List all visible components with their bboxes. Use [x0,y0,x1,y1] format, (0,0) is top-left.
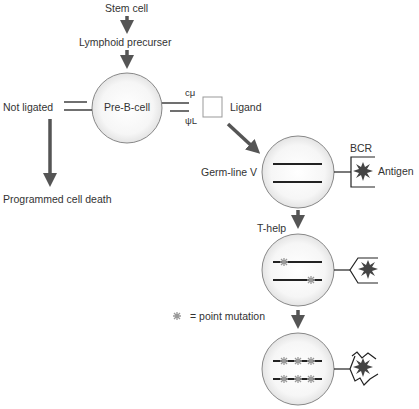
label-not-ligated: Not ligated [3,102,53,113]
label-point-mutation-legend: = point mutation [190,311,265,322]
pre-bcr-receptor [162,103,189,111]
legend-mutation-icon [173,312,181,320]
high-affinity-bcr-receptor [334,352,378,385]
arrow-ligand-to-germline [228,124,255,149]
label-bcr: BCR [350,143,372,154]
label-programmed-cell-death: Programmed cell death [3,194,112,205]
point-mutation-icon [280,258,288,266]
not-ligated-receptor [64,102,92,110]
label-germ-line-v: Germ-line V [201,167,257,178]
point-mutation-icon [307,276,315,284]
antigen-icon [358,260,378,279]
label-t-help: T-help [257,223,286,234]
label-lymphoid-precursor: Lymphoid precurser [79,37,171,48]
ligand-box [203,97,222,117]
label-pre-b-cell: Pre-B-cell [104,102,150,113]
hypermutated-cell-circle [262,333,334,405]
antigen-icon [353,358,373,377]
t-help-cell-circle [262,234,334,306]
antigen-icon [353,162,373,181]
label-c-mu: cμ [185,88,195,98]
b-cell-development-diagram: Stem cell Lymphoid precurser Pre-B-cell … [0,0,419,409]
label-psi-l: ψL [185,116,197,126]
label-antigen: Antigen [378,166,414,177]
label-ligand: Ligand [230,102,262,113]
germ-line-cell-circle [262,136,334,208]
label-stem-cell: Stem cell [105,3,148,14]
